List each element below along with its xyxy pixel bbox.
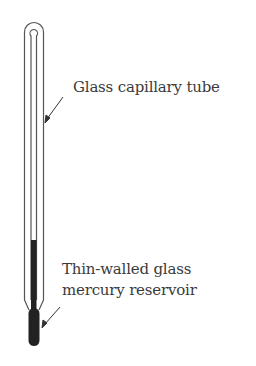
reservoir-arrow bbox=[45, 307, 60, 324]
reservoir-label-line2: mercury reservoir bbox=[62, 280, 197, 301]
mercury-bulb bbox=[29, 308, 40, 346]
mercury-reservoir-label: Thin-walled glass mercury reservoir bbox=[62, 259, 197, 301]
reservoir-arrow-head bbox=[42, 320, 47, 328]
pointer-arrows bbox=[42, 97, 63, 328]
mercury-column bbox=[31, 240, 37, 312]
capillary-arrow bbox=[47, 97, 63, 119]
capillary-tube-label: Glass capillary tube bbox=[73, 77, 220, 98]
reservoir-label-line1: Thin-walled glass bbox=[62, 259, 197, 280]
thermometer-diagram bbox=[0, 0, 256, 366]
capillary-tube-label-text: Glass capillary tube bbox=[73, 78, 220, 96]
